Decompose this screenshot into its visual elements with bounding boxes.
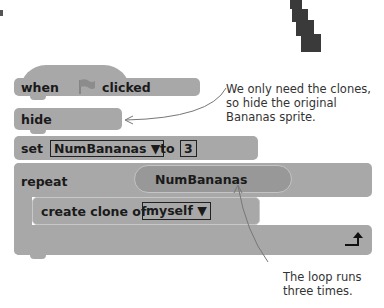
callout-lines [0, 0, 384, 308]
hide-annotation: We only need the clones, so hide the ori… [226, 82, 371, 124]
loop-annotation: The loop runs three times. [283, 270, 362, 298]
